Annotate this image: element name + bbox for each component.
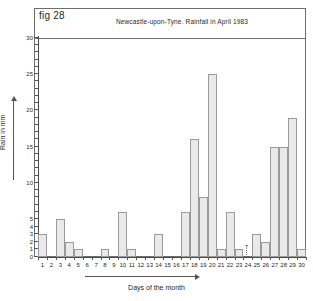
- bar: [65, 242, 74, 257]
- y-tick-label: 20: [17, 107, 33, 113]
- bar: [154, 234, 163, 257]
- chart-title: Newcastle-upon-Tyne. Rainfall in April 1…: [62, 18, 302, 25]
- x-tick-label: 30: [295, 262, 309, 268]
- x-tick: [83, 257, 84, 260]
- x-tick: [109, 257, 110, 260]
- y-tick: [35, 124, 38, 125]
- bar: [226, 212, 235, 257]
- y-tick: [35, 196, 38, 197]
- x-tick: [65, 257, 66, 260]
- y-tick: [35, 211, 38, 212]
- trace-marker: T: [245, 245, 248, 256]
- y-tick: [35, 95, 38, 96]
- x-tick: [163, 257, 164, 260]
- x-tick: [190, 257, 191, 260]
- x-tick: [261, 257, 262, 260]
- y-tick: [35, 117, 38, 118]
- y-tick-label: 3: [17, 231, 33, 237]
- x-axis-label: Days of the month: [0, 284, 313, 291]
- y-tick-label: 4: [17, 224, 33, 230]
- x-tick: [226, 257, 227, 260]
- bar: [217, 249, 226, 257]
- x-tick: [306, 257, 307, 260]
- y-tick-label: 10: [17, 180, 33, 186]
- bar: [190, 139, 199, 257]
- bar: [127, 249, 136, 257]
- bar: [235, 249, 244, 257]
- x-tick: [154, 257, 155, 260]
- y-tick-major: [34, 146, 38, 147]
- x-tick: [47, 257, 48, 260]
- bar: [279, 147, 288, 257]
- y-tick-major: [34, 182, 38, 183]
- bar: [208, 74, 217, 257]
- x-tick: [172, 257, 173, 260]
- bar: [199, 197, 208, 257]
- bar: [297, 249, 306, 257]
- y-tick-major: [34, 109, 38, 110]
- y-tick: [35, 204, 38, 205]
- y-tick: [35, 51, 38, 52]
- y-tick: [35, 175, 38, 176]
- bar: [101, 249, 110, 257]
- y-axis-arrow: [13, 100, 14, 180]
- y-axis-label: Rain in mm: [0, 115, 6, 150]
- x-tick: [118, 257, 119, 260]
- y-tick: [35, 189, 38, 190]
- y-tick-label: 15: [17, 144, 33, 150]
- bar: [56, 219, 65, 257]
- y-tick: [35, 102, 38, 103]
- y-tick: [35, 44, 38, 45]
- bar: [38, 234, 47, 257]
- chart-screenshot: fig 28 Newcastle-upon-Tyne. Rainfall in …: [0, 0, 313, 301]
- figure-label: fig 28: [39, 10, 65, 21]
- y-tick: [35, 131, 38, 132]
- bar: [118, 212, 127, 257]
- y-tick: [35, 88, 38, 89]
- y-tick: [35, 138, 38, 139]
- x-tick: [235, 257, 236, 260]
- plot-area: 0123451015202530 T: [38, 38, 306, 257]
- y-tick: [35, 167, 38, 168]
- y-tick-major: [34, 218, 38, 219]
- x-tick: [74, 257, 75, 260]
- x-tick: [279, 257, 280, 260]
- x-tick: [127, 257, 128, 260]
- y-tick: [35, 160, 38, 161]
- bar: [181, 212, 190, 257]
- y-tick-major: [34, 37, 38, 38]
- y-tick: [35, 59, 38, 60]
- x-tick: [38, 257, 39, 260]
- y-tick-label: 30: [17, 35, 33, 41]
- y-tick-label: 25: [17, 71, 33, 77]
- y-tick: [35, 66, 38, 67]
- x-axis-arrow: [85, 276, 195, 277]
- y-tick: [35, 80, 38, 81]
- bar: [270, 147, 279, 257]
- x-tick: [208, 257, 209, 260]
- y-tick-label: 2: [17, 239, 33, 245]
- y-tick-label: 1: [17, 246, 33, 252]
- bar: [261, 242, 270, 257]
- x-tick: [270, 257, 271, 260]
- x-tick: [56, 257, 57, 260]
- bar: [74, 249, 83, 257]
- x-tick: [217, 257, 218, 260]
- y-tick-label: 0: [17, 254, 33, 260]
- y-tick-major: [34, 226, 38, 227]
- x-tick-group: 1234567891011121314151617181920212223242…: [38, 257, 306, 281]
- x-tick: [145, 257, 146, 260]
- x-tick: [252, 257, 253, 260]
- x-tick: [92, 257, 93, 260]
- x-tick: [199, 257, 200, 260]
- x-tick: [297, 257, 298, 260]
- x-tick: [288, 257, 289, 260]
- x-tick: [101, 257, 102, 260]
- y-tick-label: 5: [17, 216, 33, 222]
- x-tick: [136, 257, 137, 260]
- bar: [288, 118, 297, 257]
- y-tick-major: [34, 73, 38, 74]
- y-tick: [35, 153, 38, 154]
- bar: [252, 234, 261, 257]
- x-tick: [243, 257, 244, 260]
